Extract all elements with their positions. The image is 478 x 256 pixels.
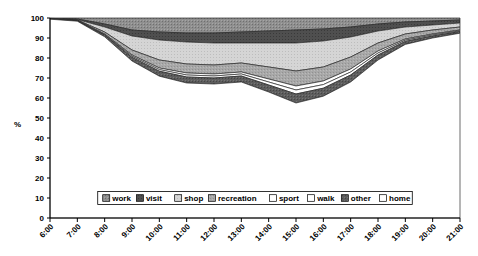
legend-item-home[interactable]: home <box>380 194 411 203</box>
legend-swatch-work <box>103 195 110 202</box>
x-tick-label: 9:00 <box>120 222 138 240</box>
legend-label-work: work <box>111 194 131 203</box>
legend-item-work[interactable]: work <box>103 194 132 203</box>
x-axis-ticks: 6:007:008:009:0010:0011:0012:0013:0014:0… <box>38 218 466 243</box>
x-tick-label: 8:00 <box>92 222 110 240</box>
legend-item-other[interactable]: other <box>341 194 371 203</box>
legend-item-visit[interactable]: visit <box>136 194 162 203</box>
legend-label-shop: shop <box>184 194 203 203</box>
y-tick-label: 60 <box>35 94 44 103</box>
y-tick-label: 0 <box>40 214 45 223</box>
legend-label-recreation: recreation <box>218 194 257 203</box>
x-tick-label: 13:00 <box>226 222 247 243</box>
y-tick-label: 70 <box>35 74 44 83</box>
x-tick-label: 11:00 <box>172 222 193 243</box>
stacked-area-chart: 0102030405060708090100 6:007:008:009:001… <box>0 0 478 256</box>
y-tick-label: 90 <box>35 34 44 43</box>
x-tick-label: 17:00 <box>335 222 356 243</box>
legend-label-visit: visit <box>146 194 162 203</box>
y-axis-ticks: 0102030405060708090100 <box>31 14 50 223</box>
y-tick-label: 80 <box>35 54 44 63</box>
x-tick-label: 6:00 <box>38 222 56 240</box>
legend-swatch-other <box>341 195 348 202</box>
legend-swatch-walk <box>308 195 315 202</box>
legend-label-sport: sport <box>279 194 299 203</box>
y-tick-label: 20 <box>35 174 44 183</box>
legend-swatch-shop <box>175 195 182 202</box>
x-tick-label: 12:00 <box>199 222 220 243</box>
legend-label-home: home <box>389 194 411 203</box>
chart-canvas: 0102030405060708090100 6:007:008:009:001… <box>0 0 478 256</box>
legend-swatch-visit <box>136 195 143 202</box>
x-tick-label: 15:00 <box>281 222 302 243</box>
legend-item-recreation[interactable]: recreation <box>208 194 256 203</box>
x-tick-label: 10:00 <box>144 222 165 243</box>
legend-label-other: other <box>351 194 371 203</box>
x-tick-label: 14:00 <box>253 222 274 243</box>
y-tick-label: 50 <box>35 114 44 123</box>
y-tick-label: 40 <box>35 134 44 143</box>
legend-label-walk: walk <box>316 194 335 203</box>
y-tick-label: 10 <box>35 194 44 203</box>
legend-swatch-sport <box>269 195 276 202</box>
legend-swatch-home <box>380 195 387 202</box>
area-bands <box>50 18 460 218</box>
x-tick-label: 21:00 <box>445 222 466 243</box>
y-tick-label: 30 <box>35 154 44 163</box>
legend-item-walk[interactable]: walk <box>308 194 335 203</box>
x-tick-label: 18:00 <box>363 222 384 243</box>
y-axis-title: % <box>14 120 21 129</box>
legend-item-shop[interactable]: shop <box>175 194 204 203</box>
y-tick-label: 100 <box>31 14 45 23</box>
chart-legend: workvisitshoprecreationsportwalkotherhom… <box>98 192 413 205</box>
x-tick-label: 20:00 <box>417 222 438 243</box>
x-tick-label: 16:00 <box>308 222 329 243</box>
x-tick-label: 7:00 <box>65 222 83 240</box>
x-tick-label: 19:00 <box>390 222 411 243</box>
legend-swatch-recreation <box>208 195 215 202</box>
legend-item-sport[interactable]: sport <box>269 194 299 203</box>
